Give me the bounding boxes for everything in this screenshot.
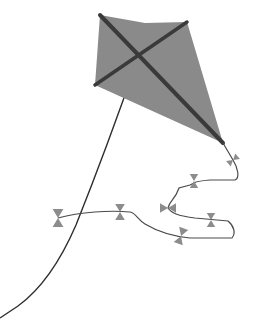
kite-scene: [0, 0, 260, 328]
